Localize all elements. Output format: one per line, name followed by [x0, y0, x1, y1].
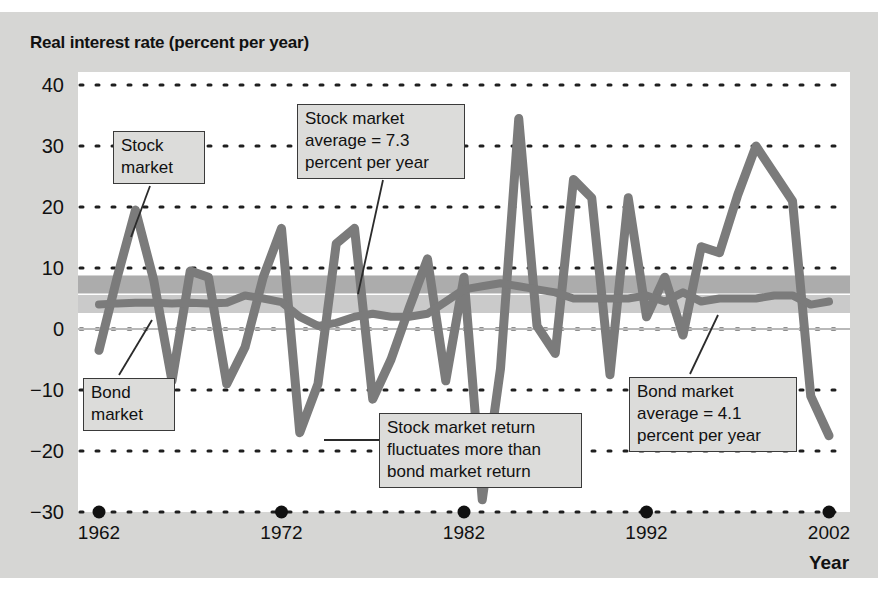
- leader-bond-market-average: [690, 315, 718, 374]
- x-tick-label-1992: 1992: [625, 522, 667, 544]
- x-axis-title: Year: [809, 552, 849, 574]
- callout-stock-fluctuation: Stock market return fluctuates more than…: [379, 413, 582, 488]
- callout-stock-market-average: Stock market average = 7.3 percent per y…: [297, 104, 465, 179]
- callout-bond-market: Bond market: [83, 378, 175, 431]
- callout-bond-market-average: Bond market average = 4.1 percent per ye…: [629, 377, 797, 452]
- x-tick-dot: [823, 506, 836, 519]
- y-tick-label-minus30: −30: [8, 501, 64, 524]
- x-tick-dot: [93, 506, 106, 519]
- y-tick-label-20: 20: [8, 196, 64, 219]
- callout-stock-market: Stock market: [113, 131, 205, 184]
- x-tick-label-1962: 1962: [78, 522, 120, 544]
- figure-container: Real interest rate (percent per year) Ye…: [0, 0, 878, 591]
- y-tick-label-10: 10: [8, 257, 64, 280]
- y-tick-label-minus20: −20: [8, 440, 64, 463]
- y-tick-label-minus10: −10: [8, 379, 64, 402]
- x-tick-label-1972: 1972: [260, 522, 302, 544]
- chart-canvas: [0, 0, 878, 591]
- x-tick-dot: [458, 506, 471, 519]
- y-tick-label-40: 40: [8, 74, 64, 97]
- y-tick-label-0: 0: [8, 318, 64, 341]
- x-tick-label-1982: 1982: [443, 522, 485, 544]
- x-tick-dot: [640, 506, 653, 519]
- x-tick-dot: [275, 506, 288, 519]
- x-tick-label-2002: 2002: [808, 522, 850, 544]
- y-tick-label-30: 30: [8, 135, 64, 158]
